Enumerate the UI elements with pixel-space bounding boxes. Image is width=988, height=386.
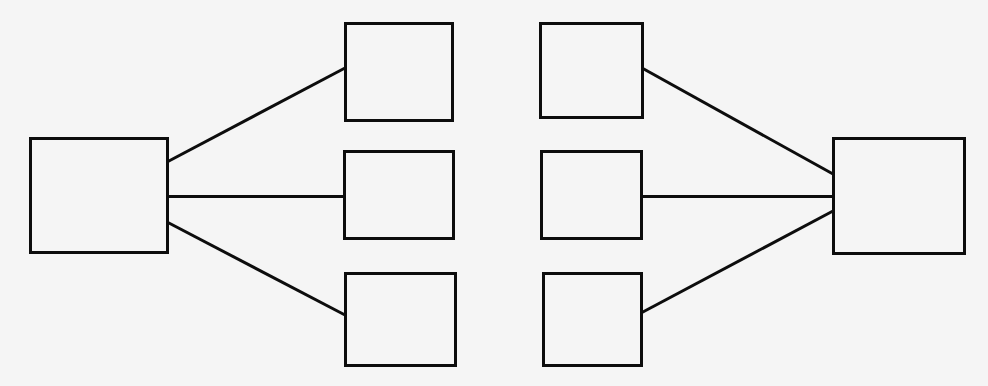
edge-mid-right-top-to-right-hub (642, 68, 833, 174)
mid-left-bottom-node[interactable] (345, 273, 455, 365)
right-hub-node[interactable] (833, 138, 964, 253)
node-layer (30, 23, 964, 365)
mid-left-top-node[interactable] (345, 23, 452, 120)
mid-left-center-node[interactable] (344, 151, 453, 238)
diagram-canvas (0, 0, 988, 386)
mid-right-top-node[interactable] (540, 23, 642, 117)
edge-left-hub-to-mid-left-bottom (167, 222, 345, 315)
diagram-svg-surface (0, 0, 988, 386)
edge-left-hub-to-mid-left-top (167, 68, 345, 162)
edge-layer (167, 68, 833, 315)
mid-right-bottom-node[interactable] (543, 273, 641, 365)
edge-mid-right-bottom-to-right-hub (641, 211, 833, 313)
mid-right-center-node[interactable] (541, 151, 641, 238)
left-hub-node[interactable] (30, 138, 167, 252)
